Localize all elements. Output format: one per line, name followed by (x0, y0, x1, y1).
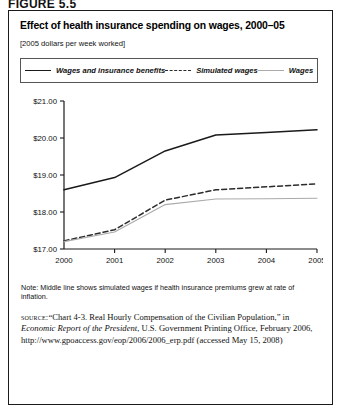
y-axis-tick-label: $19.00 (33, 171, 58, 180)
source-text-1: “Chart 4-3. Real Hourly Compensation of … (48, 312, 289, 322)
chart-note: Note: Middle line shows simulated wages … (21, 283, 318, 302)
y-axis-tick-label: $18.00 (33, 208, 58, 217)
chart-plot-area: $17.00$18.00$19.00$20.00$21.002000200120… (20, 95, 322, 273)
source-label: source: (21, 312, 48, 322)
figure-container: Effect of health insurance spending on w… (8, 10, 333, 405)
series-line-0 (64, 129, 317, 189)
legend-line-dashed-icon (165, 67, 191, 74)
y-axis-tick-label: $20.00 (33, 134, 58, 143)
legend-label: Wages and insurance benefits (56, 66, 165, 75)
x-axis-tick-label: 2004 (258, 256, 276, 265)
series-line-1 (64, 183, 317, 240)
y-axis-tick-label: $21.00 (33, 97, 58, 106)
chart-subtitle: [2005 dollars per week worked] (20, 39, 322, 48)
line-chart-svg: $17.00$18.00$19.00$20.00$21.002000200120… (20, 95, 323, 273)
x-axis-tick-label: 2003 (207, 256, 224, 265)
chart-title: Effect of health insurance spending on w… (20, 20, 322, 32)
x-axis-tick-label: 2005 (308, 256, 323, 265)
legend-line-solid-icon (25, 67, 51, 74)
x-axis-tick-label: 2001 (106, 256, 123, 265)
series-line-2 (64, 198, 317, 241)
x-axis-tick-label: 2000 (55, 256, 73, 265)
legend-item-wages-and-insurance-benefits: Wages and insurance benefits (25, 66, 165, 75)
legend-item-simulated-wages: Simulated wages (165, 66, 258, 75)
x-axis-tick-label: 2002 (157, 256, 174, 265)
source-text-italic: Economic Report of the President (21, 323, 137, 333)
chart-source: source:“Chart 4-3. Real Hourly Compensat… (21, 312, 316, 348)
chart-legend: Wages and insurance benefits Simulated w… (20, 58, 318, 83)
y-axis-tick-label: $17.00 (33, 245, 58, 254)
legend-label: Wages (289, 66, 313, 75)
legend-line-light-icon (258, 67, 284, 74)
legend-label: Simulated wages (196, 66, 258, 75)
legend-item-wages: Wages (258, 66, 313, 75)
